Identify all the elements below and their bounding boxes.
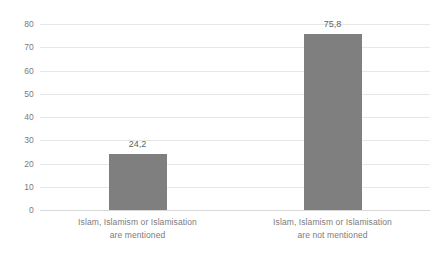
gridline bbox=[40, 140, 430, 141]
y-axis-tick-label: 70 bbox=[8, 42, 34, 52]
x-axis-category-label: Islam, Islamism or Islamisationare not m… bbox=[243, 216, 423, 242]
y-axis-tick-label: 50 bbox=[8, 89, 34, 99]
gridline bbox=[40, 24, 430, 25]
y-axis-tick-label: 80 bbox=[8, 19, 34, 29]
gridline bbox=[40, 71, 430, 72]
bar bbox=[109, 154, 167, 210]
y-axis-tick-label: 10 bbox=[8, 182, 34, 192]
bar bbox=[304, 34, 362, 210]
category-label-line: are mentioned bbox=[48, 229, 228, 242]
y-axis-tick-label: 20 bbox=[8, 159, 34, 169]
gridline bbox=[40, 210, 430, 211]
y-axis-tick-label: 60 bbox=[8, 66, 34, 76]
bar-chart: 01020304050607080 24,275,8 Islam, Islami… bbox=[0, 0, 442, 262]
y-axis-tick-label: 40 bbox=[8, 112, 34, 122]
gridline bbox=[40, 94, 430, 95]
gridline bbox=[40, 117, 430, 118]
bar-value-label: 75,8 bbox=[324, 19, 342, 29]
gridline bbox=[40, 164, 430, 165]
plot-area bbox=[40, 24, 430, 210]
gridline bbox=[40, 187, 430, 188]
category-label-line: Islam, Islamism or Islamisation bbox=[273, 217, 392, 227]
x-axis-category-label: Islam, Islamism or Islamisationare menti… bbox=[48, 216, 228, 242]
bar-value-label: 24,2 bbox=[129, 139, 147, 149]
y-axis-tick-label: 30 bbox=[8, 135, 34, 145]
category-label-line: are not mentioned bbox=[243, 229, 423, 242]
gridline bbox=[40, 47, 430, 48]
category-label-line: Islam, Islamism or Islamisation bbox=[78, 217, 197, 227]
y-axis-tick-label: 0 bbox=[8, 205, 34, 215]
